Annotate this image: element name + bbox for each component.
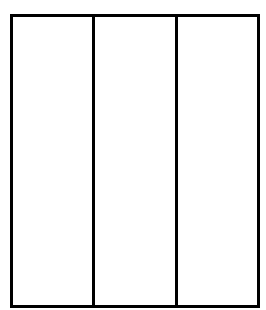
- column-3: [175, 17, 257, 305]
- column-1: [13, 17, 92, 305]
- outer-rectangle: [10, 14, 260, 308]
- column-2: [92, 17, 174, 305]
